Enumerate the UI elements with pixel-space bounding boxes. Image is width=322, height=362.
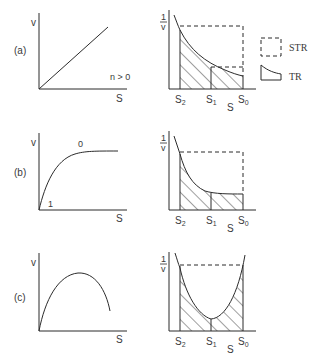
x-axis-label: S xyxy=(227,102,234,113)
y-axis-label: v xyxy=(31,257,36,268)
right-plot-inverse-rate: 1 v S2 S1 S0 S xyxy=(160,252,256,355)
panel-label: (a) xyxy=(14,45,26,56)
panel-a: (a) v S n > 0 1 v S2 S xyxy=(14,10,308,113)
y-axis-label: v xyxy=(31,17,36,28)
y-axis-label-den: v xyxy=(161,22,166,32)
rate-curve xyxy=(39,27,108,89)
left-plot-v-vs-s: v S xyxy=(31,253,127,345)
tick-s0: S0 xyxy=(238,215,249,227)
tick-s0: S0 xyxy=(238,94,249,106)
legend: STR TR xyxy=(261,38,308,82)
tick-s2: S2 xyxy=(175,336,186,348)
panel-c: (c) v S 1 v S2 S1 S0 S xyxy=(14,252,256,355)
x-axis-label: S xyxy=(116,213,123,224)
panel-b: (b) v S 0 1 1 v S2 S1 S0 S xyxy=(14,131,256,234)
tick-s1: S1 xyxy=(206,215,217,227)
tick-s1: S1 xyxy=(206,336,217,348)
tick-s1: S1 xyxy=(206,94,217,106)
panel-label: (b) xyxy=(14,167,26,178)
y-axis-label-den: v xyxy=(161,143,166,153)
right-plot-inverse-rate: 1 v S2 S1 S0 S xyxy=(160,10,256,113)
tick-s2: S2 xyxy=(175,94,186,106)
reactor-comparison-figure: (a) v S n > 0 1 v S2 S xyxy=(0,0,322,362)
y-axis-label-num: 1 xyxy=(161,254,166,264)
y-axis-label-num: 1 xyxy=(161,12,166,22)
x-axis-label: S xyxy=(116,93,123,104)
str-legend-label: STR xyxy=(289,42,308,53)
x-axis-label: S xyxy=(227,223,234,234)
left-plot-v-vs-s: v S 0 1 xyxy=(31,133,127,224)
panel-label: (c) xyxy=(14,292,26,303)
rate-curve xyxy=(39,273,110,331)
x-axis-label: S xyxy=(227,344,234,355)
order-annotation: n > 0 xyxy=(110,72,130,82)
tick-s2: S2 xyxy=(175,215,186,227)
y-axis-label-num: 1 xyxy=(161,133,166,143)
tr-legend-icon xyxy=(261,65,281,80)
left-plot-v-vs-s: v S n > 0 xyxy=(31,13,130,104)
right-plot-inverse-rate: 1 v S2 S1 S0 S xyxy=(160,131,256,234)
tr-legend-label: TR xyxy=(289,71,302,82)
x-axis-label: S xyxy=(116,334,123,345)
y-axis-label: v xyxy=(31,137,36,148)
tick-s0: S0 xyxy=(238,336,249,348)
y-axis-label-den: v xyxy=(161,264,166,274)
zero-order-annotation: 0 xyxy=(78,139,83,149)
first-order-annotation: 1 xyxy=(48,199,53,209)
str-legend-icon xyxy=(261,38,281,56)
